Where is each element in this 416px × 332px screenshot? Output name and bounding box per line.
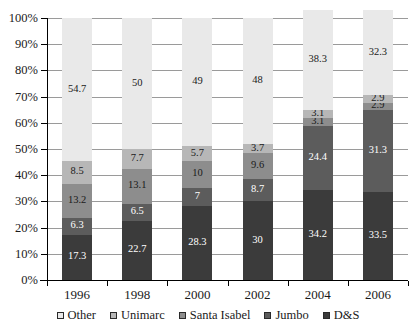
bar-segment: 3.1: [303, 110, 333, 118]
bar-segment: 8.7: [243, 179, 273, 202]
legend-item-label: Santa Isabel: [190, 309, 251, 322]
legend-swatch-icon: [264, 312, 271, 319]
bar-segment-value-label: 49: [182, 76, 212, 86]
bar-segment: 50: [122, 18, 152, 149]
legend-item[interactable]: Unimarc: [110, 309, 165, 322]
bar-segment-value-label: 24.4: [303, 152, 333, 162]
legend-item[interactable]: Santa Isabel: [179, 309, 251, 322]
bar-segment: 8.5: [62, 161, 92, 183]
bar-segment: 6.3: [62, 218, 92, 235]
x-axis-tick-mark: [167, 281, 168, 286]
bar-segment: 24.4: [303, 126, 333, 190]
bar-segment-value-label: 8.5: [62, 166, 92, 176]
chart-legend: OtherUnimarcSanta IsabelJumboD&S: [0, 309, 416, 322]
bar-segment: 7: [182, 188, 212, 206]
bar-segment: 2.9: [363, 103, 393, 111]
bar-stack: 22.76.513.17.750: [122, 18, 152, 280]
bar-segment: 34.2: [303, 190, 333, 280]
bar-segment-value-label: 48: [243, 75, 273, 85]
bar-segment: 6.5: [122, 204, 152, 221]
x-axis-tick-mark: [288, 281, 289, 286]
bar-segment: 33.5: [363, 192, 393, 280]
legend-item[interactable]: Jumbo: [264, 309, 308, 322]
bar-segment: 31.3: [363, 110, 393, 192]
y-axis-tick-label: 70%: [0, 90, 38, 105]
legend-swatch-icon: [179, 312, 186, 319]
bar-segment: 5.7: [182, 146, 212, 161]
y-axis-tick-label: 80%: [0, 63, 38, 78]
bars-layer: 17.36.313.28.554.722.76.513.17.75028.371…: [47, 18, 408, 280]
bar-segment-value-label: 10: [182, 168, 212, 178]
bar-segment: 22.7: [122, 221, 152, 280]
y-axis-tick-label: 60%: [0, 116, 38, 131]
y-axis-line: [47, 18, 48, 281]
bar-segment-value-label: 54.7: [62, 84, 92, 94]
x-axis-tick-mark: [408, 281, 409, 286]
bar-segment: 9.6: [243, 153, 273, 178]
legend-swatch-icon: [110, 312, 117, 319]
legend-item-label: Jumbo: [275, 309, 308, 322]
legend-item[interactable]: D&S: [323, 309, 360, 322]
bar-stack: 28.37105.749: [182, 18, 212, 280]
x-axis-tick-label: 1996: [47, 287, 107, 303]
bar-segment-value-label: 34.2: [303, 229, 333, 239]
y-axis-tick-label: 40%: [0, 168, 38, 183]
bar-segment-value-label: 9.6: [243, 160, 273, 170]
bar-segment-value-label: 17.3: [62, 251, 92, 261]
bar-segment-value-label: 7: [182, 191, 212, 201]
legend-swatch-icon: [323, 312, 330, 319]
x-axis-line: [40, 280, 408, 281]
legend-item[interactable]: Other: [57, 309, 96, 322]
y-axis-tick-label: 50%: [0, 142, 38, 157]
bar-segment-value-label: 33.5: [363, 230, 393, 240]
bar-segment: 54.7: [62, 18, 92, 161]
x-axis-tick-label: 1998: [107, 287, 167, 303]
bar-segment-value-label: 13.2: [62, 195, 92, 205]
bar-segment-value-label: 6.3: [62, 220, 92, 230]
bar-segment: 3.1: [303, 118, 333, 126]
y-axis-tick-label: 100%: [0, 11, 38, 26]
x-axis-tick-mark: [47, 281, 48, 286]
y-axis-tick-label: 20%: [0, 221, 38, 236]
bar-segment-value-label: 38.3: [303, 54, 333, 64]
bar-segment-value-label: 50: [122, 78, 152, 88]
bar-stack: 34.224.43.13.138.3: [303, 18, 333, 280]
bar-segment: 7.7: [122, 149, 152, 169]
bar-segment: 49: [182, 18, 212, 146]
legend-item-label: D&S: [334, 309, 360, 322]
bar-stack: 33.531.32.92.932.3: [363, 18, 393, 280]
legend-item-label: Other: [68, 309, 96, 322]
x-axis-tick-mark: [348, 281, 349, 286]
x-axis-tick-label: 2004: [288, 287, 348, 303]
bar-segment: 13.1: [122, 169, 152, 203]
bar-segment: 30: [243, 201, 273, 280]
bar-segment-value-label: 22.7: [122, 244, 152, 254]
bar-segment: 38.3: [303, 10, 333, 110]
x-axis-tick-mark: [228, 281, 229, 286]
stacked-bar-chart: 0%10%20%30%40%50%60%70%80%90%100% 17.36.…: [0, 0, 416, 332]
bar-segment: 3.7: [243, 144, 273, 154]
legend-swatch-icon: [57, 312, 64, 319]
bar-segment-value-label: 6.5: [122, 206, 152, 216]
legend-item-label: Unimarc: [121, 309, 165, 322]
y-axis-tick-label: 30%: [0, 194, 38, 209]
y-axis-tick-label: 90%: [0, 37, 38, 52]
bar-segment-value-label: 30: [243, 235, 273, 245]
x-axis-tick-label: 2002: [228, 287, 288, 303]
bar-segment-value-label: 5.7: [182, 148, 212, 158]
x-axis-tick-label: 2000: [167, 287, 227, 303]
bar-segment: 28.3: [182, 206, 212, 280]
bar-segment-value-label: 3.7: [243, 143, 273, 153]
bar-stack: 17.36.313.28.554.7: [62, 18, 92, 280]
bar-segment: 10: [182, 161, 212, 187]
bar-segment: 17.3: [62, 235, 92, 280]
bar-segment-value-label: 8.7: [243, 184, 273, 194]
bar-segment: 13.2: [62, 184, 92, 219]
y-axis-tick-label: 0%: [0, 273, 38, 288]
bar-segment-value-label: 13.1: [122, 180, 152, 190]
bar-segment: 32.3: [363, 10, 393, 95]
bar-segment: 48: [243, 18, 273, 144]
bar-segment-value-label: 32.3: [363, 47, 393, 57]
bar-segment-value-label: 31.3: [363, 145, 393, 155]
bar-segment-value-label: 7.7: [122, 153, 152, 163]
